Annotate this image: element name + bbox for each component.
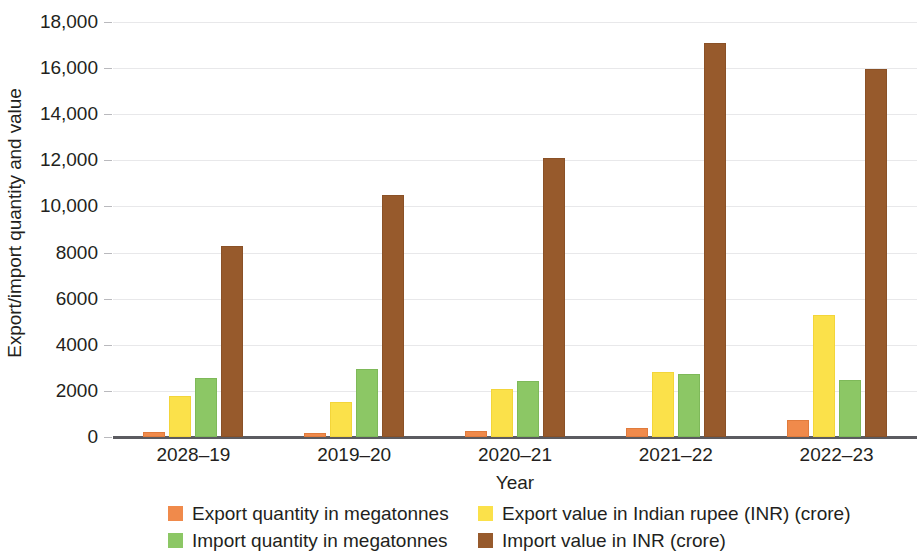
legend-item[interactable]: Export value in Indian rupee (INR) (cror… — [478, 500, 908, 527]
bar[interactable] — [221, 246, 243, 437]
bar[interactable] — [704, 43, 726, 437]
bar-group — [274, 22, 435, 437]
y-axis-tick-label: 10,000 — [2, 195, 98, 217]
y-axis-tick-label: 4000 — [2, 334, 98, 356]
bar[interactable] — [626, 428, 648, 437]
x-axis-tick-label: 2028–19 — [113, 444, 274, 470]
y-axis-tick-mark — [104, 68, 112, 69]
bar[interactable] — [465, 431, 487, 437]
bar[interactable] — [356, 369, 378, 437]
bar[interactable] — [169, 396, 191, 438]
chart-legend: Export quantity in megatonnesExport valu… — [168, 500, 908, 554]
bar-groups — [113, 22, 917, 437]
legend-item[interactable]: Export quantity in megatonnes — [168, 500, 468, 527]
bar[interactable] — [865, 69, 887, 437]
x-axis-tick-label: 2020–21 — [435, 444, 596, 470]
x-axis-tick-label: 2022–23 — [756, 444, 917, 470]
x-axis-tick-label: 2019–20 — [274, 444, 435, 470]
y-axis-tick-mark — [104, 206, 112, 207]
legend-label: Export quantity in megatonnes — [192, 503, 449, 525]
bar[interactable] — [839, 380, 861, 437]
y-axis-tick-mark — [104, 437, 112, 438]
bar[interactable] — [652, 372, 674, 437]
x-axis-tick-labels: 2028–192019–202020–212021–222022–23 — [113, 444, 917, 470]
bar[interactable] — [382, 195, 404, 437]
bar[interactable] — [517, 381, 539, 437]
y-axis-tick-label: 6000 — [2, 288, 98, 310]
bar[interactable] — [330, 402, 352, 437]
x-axis-tick-label: 2021–22 — [595, 444, 756, 470]
y-axis-tick-mark — [104, 114, 112, 115]
y-axis-title-text: Export/import quantity and value — [4, 88, 26, 357]
legend-item[interactable]: Import quantity in megatonnes — [168, 527, 468, 554]
legend-label: Export value in Indian rupee (INR) (cror… — [502, 503, 850, 525]
y-axis-tick-label: 14,000 — [2, 103, 98, 125]
y-axis-tick-label: 12,000 — [2, 149, 98, 171]
legend-color-swatch — [168, 533, 183, 548]
y-axis-tick-mark — [104, 391, 112, 392]
bar[interactable] — [304, 433, 326, 437]
legend-color-swatch — [478, 533, 493, 548]
legend-color-swatch — [168, 506, 183, 521]
x-axis-title: Year — [113, 472, 917, 494]
bar[interactable] — [543, 158, 565, 437]
y-axis-tick-label: 2000 — [2, 380, 98, 402]
y-axis-tick-label: 16,000 — [2, 57, 98, 79]
y-axis-tick-label: 8000 — [2, 242, 98, 264]
bar-chart-figure: Export/import quantity and value 0200040… — [0, 0, 917, 555]
y-axis-tick-mark — [104, 160, 112, 161]
legend-color-swatch — [478, 506, 493, 521]
legend-item[interactable]: Import value in INR (crore) — [478, 527, 908, 554]
y-axis-tick-mark — [104, 345, 112, 346]
bar[interactable] — [491, 389, 513, 437]
y-axis-tick-label: 0 — [2, 426, 98, 448]
y-axis-tick-label: 18,000 — [2, 11, 98, 33]
bar[interactable] — [143, 432, 165, 437]
bar[interactable] — [195, 378, 217, 437]
y-axis-tick-mark — [104, 299, 112, 300]
bar[interactable] — [813, 315, 835, 437]
bar[interactable] — [678, 374, 700, 437]
bar-group — [595, 22, 756, 437]
y-axis-tick-mark — [104, 253, 112, 254]
bar-group — [113, 22, 274, 437]
bar-group — [756, 22, 917, 437]
legend-label: Import quantity in megatonnes — [192, 530, 448, 552]
bar-group — [435, 22, 596, 437]
bar[interactable] — [787, 420, 809, 437]
y-axis-tick-mark — [104, 22, 112, 23]
legend-label: Import value in INR (crore) — [502, 530, 726, 552]
